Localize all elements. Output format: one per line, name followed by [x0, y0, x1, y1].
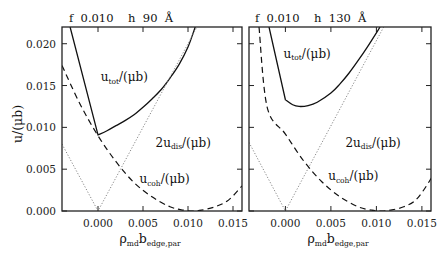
x-axis-title: ρmdbedge,par: [307, 231, 368, 248]
figure: u/(μb) 0.0000.0050.0100.0150.0000.0050.0…: [0, 0, 446, 255]
y-axis-title: u/(μb): [10, 105, 25, 143]
y-tick-label: 0.000: [26, 205, 56, 217]
x-tick-label: 0.005: [316, 217, 346, 229]
y-tick-label: 0.020: [26, 38, 56, 50]
x-tick-label: 0.015: [218, 217, 248, 229]
y-tick-label: 0.015: [26, 80, 56, 92]
udis-label: 2udis/(μb): [345, 136, 400, 152]
x-tick-label: 0.005: [128, 217, 158, 229]
udis-label: 2udis/(μb): [156, 136, 211, 152]
y-tick-label: 0.005: [26, 163, 56, 175]
right-panel: 0.0000.0050.0100.015f 0.010 h 130 Åutot/…: [249, 11, 437, 248]
y-tick-label: 0.010: [26, 121, 56, 133]
ucoh-label: ucoh/(μb): [139, 172, 189, 188]
utot-label: utot/(μb): [284, 47, 331, 63]
x-tick-label: 0.010: [173, 217, 203, 229]
panel-header: f 0.010 h 90 Å: [69, 11, 174, 25]
x-axis-title: ρmdbedge,par: [119, 231, 180, 248]
x-tick-label: 0.000: [270, 217, 300, 229]
x-tick-label: 0.015: [407, 217, 437, 229]
panel-header: f 0.010 h 130 Å: [255, 11, 367, 25]
x-tick-label: 0.010: [361, 217, 391, 229]
series-dashed: [62, 65, 242, 211]
utot-label: utot/(μb): [101, 70, 148, 86]
left-panel: 0.0000.0050.0100.0150.0000.0050.0100.015…: [26, 11, 248, 248]
x-tick-label: 0.000: [83, 217, 113, 229]
ucoh-label: ucoh/(μb): [328, 169, 378, 185]
series-solid: [269, 27, 380, 106]
